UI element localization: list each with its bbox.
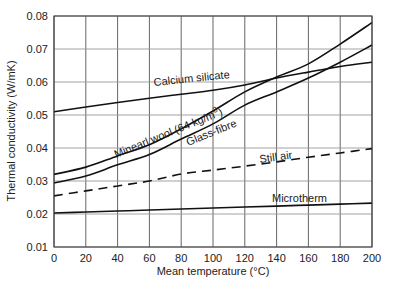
x-tick-label: 120: [236, 252, 254, 264]
label-still-air: Still air: [259, 148, 294, 165]
y-tick-label: 0.06: [27, 76, 48, 88]
x-tick-label: 40: [111, 252, 123, 264]
y-tick-label: 0.07: [27, 43, 48, 55]
y-tick-label: 0.08: [27, 10, 48, 22]
x-tick-label: 60: [143, 252, 155, 264]
y-tick-label: 0.03: [27, 175, 48, 187]
x-axis-ticks: 020406080100120140160180200: [51, 252, 381, 264]
x-tick-label: 180: [331, 252, 349, 264]
y-tick-label: 0.04: [27, 142, 48, 154]
x-tick-label: 100: [204, 252, 222, 264]
label-calcium-silicate: Calcium silicate: [153, 68, 230, 88]
x-axis-label: Mean temperature (°C): [157, 265, 270, 277]
y-axis-ticks: 0.010.020.030.040.050.060.070.08: [27, 10, 48, 253]
y-tick-label: 0.05: [27, 109, 48, 121]
y-axis-label: Thermal conductivity (W/mK): [5, 60, 17, 201]
y-tick-label: 0.02: [27, 208, 48, 220]
x-tick-label: 140: [267, 252, 285, 264]
x-tick-label: 0: [51, 252, 57, 264]
label-microtherm: Microtherm: [272, 192, 327, 204]
thermal-conductivity-chart: 020406080100120140160180200 0.010.020.03…: [0, 0, 393, 292]
x-tick-label: 20: [80, 252, 92, 264]
x-tick-label: 200: [363, 252, 381, 264]
y-tick-label: 0.01: [27, 241, 48, 253]
x-tick-label: 160: [299, 252, 317, 264]
x-tick-label: 80: [175, 252, 187, 264]
